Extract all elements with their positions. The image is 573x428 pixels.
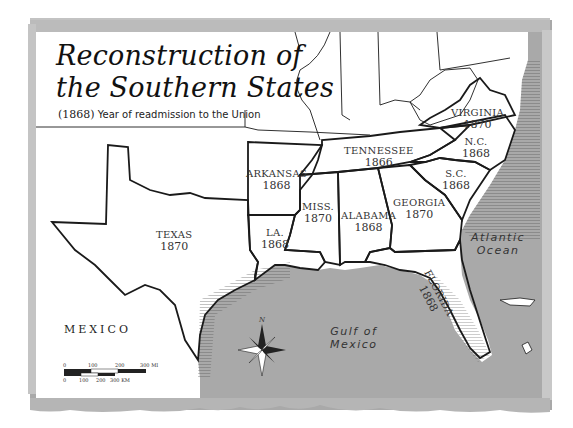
scale-km-200: 200 xyxy=(96,377,106,383)
cuba-island xyxy=(500,298,535,306)
compass-north-label: N xyxy=(259,316,265,324)
state-label-arkansas: Arkansas 1868 xyxy=(246,168,307,192)
state-label-virginia: Virginia 1870 xyxy=(451,107,504,131)
scale-km-100: 100 xyxy=(79,377,89,383)
scale-mi-100: 100 xyxy=(88,362,98,368)
scale-mi-200: 200 xyxy=(115,362,125,368)
state-label-louisiana: La. 1868 xyxy=(261,227,289,251)
legend-sample-year: (1868) xyxy=(58,108,95,121)
torn-frame-bottom xyxy=(30,398,550,413)
scale-km-300: 300 KM xyxy=(110,377,130,383)
state-label-mississippi: Miss. 1870 xyxy=(302,201,334,225)
scale-km-0: 0 xyxy=(63,377,66,383)
scale-mi-300: 300 MI xyxy=(140,362,158,368)
compass-rose-icon xyxy=(238,324,286,376)
bahamas-island xyxy=(522,342,532,354)
state-label-alabama: Alabama 1868 xyxy=(341,210,396,234)
state-label-texas: Texas 1870 xyxy=(156,229,192,253)
state-label-georgia: Georgia 1870 xyxy=(393,197,445,221)
legend: (1868) Year of readmission to the Union xyxy=(58,108,261,121)
water-label-atlantic: Atlantic Ocean xyxy=(471,231,525,257)
scale-mi-0: 0 xyxy=(63,362,66,368)
water-label-gulf: Gulf of Mexico xyxy=(330,325,378,351)
state-label-tennessee: Tennessee 1866 xyxy=(344,145,414,169)
state-label-north-carolina: N.C. 1868 xyxy=(462,136,490,160)
title-line-1: Reconstruction of xyxy=(56,40,334,72)
legend-description: Year of readmission to the Union xyxy=(98,109,261,120)
country-label-mexico: MEXICO xyxy=(64,323,131,336)
title-line-2: the Southern States xyxy=(56,72,334,104)
state-label-south-carolina: S.C. 1868 xyxy=(442,168,470,192)
map-title: Reconstruction of the Southern States xyxy=(56,40,334,104)
map-figure: Reconstruction of the Southern States (1… xyxy=(0,0,573,428)
